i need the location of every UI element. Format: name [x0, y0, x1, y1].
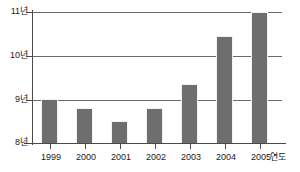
bar-slot-1999 [34, 12, 66, 143]
x-axis-label-2001: 2001 [101, 152, 141, 162]
x-tick-2004 [225, 144, 226, 149]
x-axis-label-2002: 2002 [136, 152, 176, 162]
bar-2002[interactable] [146, 108, 163, 143]
bar-slot-2001 [104, 12, 136, 143]
bar-slot-2002 [139, 12, 171, 143]
bar-1999[interactable] [41, 99, 58, 143]
bar-2000[interactable] [76, 108, 93, 143]
bar-2004[interactable] [216, 36, 233, 143]
x-tick-2000 [85, 144, 86, 149]
x-axis-label-2004: 2004 [206, 152, 246, 162]
x-axis-label-2000: 2000 [66, 152, 106, 162]
x-tick-2005 [260, 144, 261, 149]
bar-chart: 11년 10년 9년 8년 1999 2000 2001 2002 2003 2… [0, 0, 300, 172]
bar-slot-2004 [209, 12, 241, 143]
x-axis-label-1999: 1999 [31, 152, 71, 162]
x-tick-2002 [155, 144, 156, 149]
bar-2001[interactable] [111, 121, 128, 143]
y-axis-label-10: 10년 [2, 51, 28, 60]
y-axis-label-8: 8년 [2, 138, 28, 147]
x-axis-label-2003: 2003 [171, 152, 211, 162]
x-axis-title: 연도 [270, 152, 286, 162]
x-tick-2001 [120, 144, 121, 149]
x-tick-2003 [190, 144, 191, 149]
bar-2003[interactable] [181, 84, 198, 143]
y-axis-label-9: 9년 [2, 95, 28, 104]
bar-group [32, 12, 282, 143]
bar-slot-2000 [69, 12, 101, 143]
bar-2005[interactable] [251, 12, 268, 143]
bar-slot-2005 [244, 12, 276, 143]
y-axis-label-11: 11년 [2, 7, 28, 16]
bar-slot-2003 [174, 12, 206, 143]
x-tick-1999 [50, 144, 51, 149]
